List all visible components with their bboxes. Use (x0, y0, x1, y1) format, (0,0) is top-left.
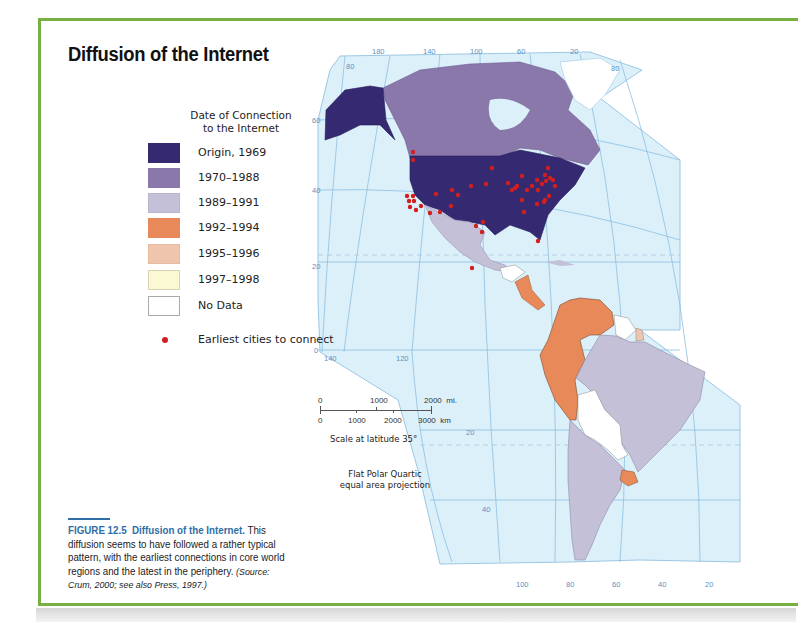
legend-item: Origin, 1969 (148, 143, 328, 165)
scale-tick-km: 2000 (384, 416, 402, 425)
longitude-label: 80 (566, 580, 574, 589)
scale-tick-mi: 1000 (370, 396, 388, 405)
caption-rule (68, 518, 110, 520)
scale-unit: km (440, 416, 451, 425)
longitude-label: 60 (517, 47, 525, 56)
scale-tick-km: 0 (318, 416, 322, 425)
legend-label: Origin, 1969 (198, 146, 266, 159)
legend-swatch (148, 296, 180, 316)
scale-tick-mark (431, 406, 432, 414)
scale-tick-mark (356, 410, 357, 413)
legend-item: 1997–1998 (148, 270, 328, 292)
longitude-label: 20 (705, 580, 713, 589)
legend-title-line: to the Internet (186, 122, 296, 135)
projection-line: Flat Polar Quartic (330, 469, 440, 480)
legend-label: Earliest cities to connect (198, 333, 334, 346)
scale-tick-mark (320, 406, 321, 414)
longitude-label: 60 (612, 580, 620, 589)
scale-unit: mi. (446, 396, 457, 405)
legend-label: 1992–1994 (198, 221, 260, 234)
legend-label: 1995–1996 (198, 247, 260, 260)
legend-label: No Data (198, 299, 243, 312)
legend-swatch (148, 193, 180, 213)
longitude-label: 140 (324, 354, 337, 363)
legend-item: No Data (148, 296, 328, 318)
legend-item-cities: Earliest cities to connect (148, 332, 328, 354)
legend-swatch (148, 270, 180, 290)
scale-note: Scale at latitude 35° (330, 434, 417, 444)
longitude-label: 120 (396, 354, 409, 363)
figure-number: FIGURE 12.5 (68, 524, 127, 536)
latitude-label: 60 (312, 116, 320, 125)
latitude-label: 80 (346, 62, 354, 71)
legend-label: 1970–1988 (198, 171, 260, 184)
latitude-label: 40 (482, 505, 490, 514)
scale-tick-km: 1000 (348, 416, 366, 425)
legend-swatch (148, 218, 180, 238)
scale-tick-mark (393, 410, 394, 413)
scale-tick-km: 3000 km (418, 416, 451, 425)
legend-label: 1997–1998 (198, 273, 260, 286)
longitude-label: 100 (470, 47, 483, 56)
longitude-label: 20 (570, 47, 578, 56)
figure-caption: FIGURE 12.5 Diffusion of the Internet. T… (68, 524, 291, 592)
legend-item: 1995–1996 (148, 244, 328, 266)
scale-tick-mi: 2000 mi. (424, 396, 457, 405)
legend-swatch (148, 168, 180, 188)
legend-swatch (148, 244, 180, 264)
scale-line (320, 410, 432, 411)
legend-item: 1989–1991 (148, 193, 328, 215)
caption-title: Diffusion of the Internet. (132, 524, 245, 536)
longitude-label: 40 (658, 580, 666, 589)
legend-title-line: Date of Connection (186, 109, 296, 122)
longitude-label: 100 (516, 580, 529, 589)
legend-swatch (148, 143, 180, 163)
latitude-label: 80 (611, 64, 619, 73)
longitude-label: 140 (423, 47, 436, 56)
scale-tick-value: 3000 (418, 416, 436, 425)
projection-line: equal area projection (330, 480, 440, 491)
city-dot-icon (162, 337, 168, 343)
legend-label: 1989–1991 (198, 196, 260, 209)
legend-title: Date of Connection to the Internet (186, 109, 296, 135)
scale-tick-mi: 0 (318, 396, 322, 405)
latitude-label: 20 (466, 428, 474, 437)
projection-note: Flat Polar Quartic equal area projection (330, 469, 440, 491)
legend-item: 1970–1988 (148, 168, 328, 190)
longitude-label: 180 (372, 47, 385, 56)
legend-item: 1992–1994 (148, 218, 328, 240)
scale-tick-mark (376, 407, 377, 410)
scale-tick-value: 2000 (424, 396, 442, 405)
